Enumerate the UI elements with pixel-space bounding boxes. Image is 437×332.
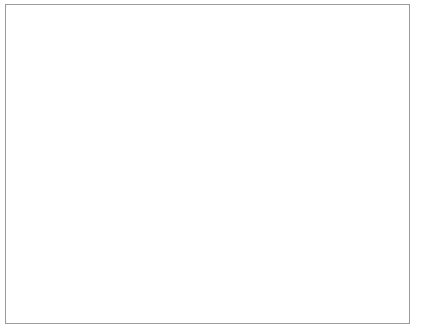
chart-container: 024681012Yes,definitelyYes,possiblyI don… — [0, 0, 437, 332]
chart-frame-border — [5, 4, 410, 324]
